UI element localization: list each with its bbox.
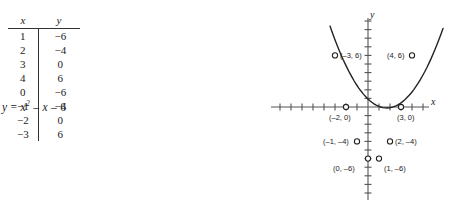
- point-marker-3-0: [398, 104, 403, 109]
- cell-x: 1: [8, 29, 38, 43]
- figure-parabola: x y 1 −6 2 −4 3: [0, 0, 453, 204]
- cell-y: 6: [38, 127, 80, 141]
- equation-minus-2: –: [48, 101, 60, 113]
- table-xy: x y 1 −6 2 −4 3: [8, 14, 80, 141]
- point-label-1-neg6: (1, –6): [384, 164, 406, 173]
- cell-y: −6: [38, 85, 80, 99]
- point-label-2-neg4: (2, –4): [395, 137, 417, 146]
- x-axis: [271, 104, 429, 111]
- cell-y: −6: [38, 29, 80, 43]
- point-marker-0-neg6: [365, 156, 370, 161]
- cell-x: −2: [8, 113, 38, 127]
- equation-term3: 6: [60, 101, 66, 113]
- equation-minus-1: –: [30, 101, 42, 113]
- graph-svg: x y (–3, 6) (4, 6) (–2, 0) (3, 0) (–1, –…: [225, 0, 453, 204]
- y-axis-label: y: [369, 9, 375, 20]
- equation-equals: =: [7, 101, 20, 113]
- cell-x: 0: [8, 85, 38, 99]
- equation-label: y = x2 – x – 6: [2, 99, 66, 113]
- point-marker-1-neg6: [376, 156, 381, 161]
- table-header-row: x y: [8, 14, 80, 28]
- cell-x: −3: [8, 127, 38, 141]
- point-label-neg1-4: (–1, –4): [323, 137, 349, 146]
- table-head: x y: [8, 14, 80, 29]
- point-marker-neg1-4: [354, 139, 359, 144]
- value-table: x y 1 −6 2 −4 3: [8, 14, 80, 141]
- table-row: 2 −4: [8, 43, 80, 57]
- point-marker-4-6: [409, 53, 414, 58]
- y-axis: [365, 18, 372, 200]
- table-row: −2 0: [8, 113, 80, 127]
- table-row: 1 −6: [8, 29, 80, 43]
- cell-x: 3: [8, 57, 38, 71]
- cell-x: 2: [8, 43, 38, 57]
- point-label-4-6: (4, 6): [387, 51, 405, 60]
- point-marker-neg3-6: [332, 53, 337, 58]
- cell-y: 6: [38, 71, 80, 85]
- table-body: 1 −6 2 −4 3 0 4 6 0 −6: [8, 29, 80, 141]
- cell-y: 0: [38, 113, 80, 127]
- point-label-neg2-0: (–2, 0): [329, 113, 351, 122]
- table-row: 0 −6: [8, 85, 80, 99]
- cell-x: 4: [8, 71, 38, 85]
- x-axis-label: x: [430, 96, 436, 107]
- coordinate-graph: x y (–3, 6) (4, 6) (–2, 0) (3, 0) (–1, –…: [225, 0, 453, 204]
- parabola-curve: [330, 26, 443, 108]
- table-row: 3 0: [8, 57, 80, 71]
- point-marker-2-neg4: [387, 139, 392, 144]
- point-label-3-0: (3, 0): [397, 113, 415, 122]
- column-header-y: y: [38, 14, 80, 28]
- cell-y: −4: [38, 43, 80, 57]
- table-row: −3 6: [8, 127, 80, 141]
- point-label-neg3-6: (–3, 6): [340, 51, 362, 60]
- table-row: 4 6: [8, 71, 80, 85]
- column-header-x: x: [8, 14, 38, 28]
- cell-y: 0: [38, 57, 80, 71]
- point-marker-neg2-0: [343, 104, 348, 109]
- point-label-0-neg6: (0, –6): [333, 164, 355, 173]
